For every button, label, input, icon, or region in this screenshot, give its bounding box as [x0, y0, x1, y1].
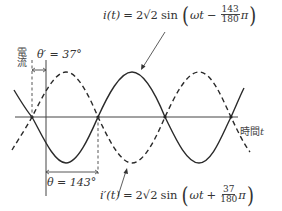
eq-i-denominator: 180 — [222, 15, 239, 24]
eq-i-rparen: ) — [249, 1, 256, 27]
eq-ip-sign: + — [207, 188, 217, 202]
waveform-plot — [0, 0, 282, 211]
eq-ip-rparen: ) — [247, 181, 254, 207]
eq-i-sign: − — [207, 8, 217, 22]
y-axis-label: 電流 — [13, 47, 28, 67]
eq-i-pi: π — [241, 8, 249, 22]
crossing-dot — [229, 115, 232, 118]
eq-ip-equals: = — [123, 188, 133, 202]
eq-ip-lparen: ( — [182, 181, 189, 207]
eq-i-omega-t: ωt — [190, 8, 204, 22]
x-axis-label: 時間t — [240, 123, 264, 138]
i-prime-leader-arrowhead — [124, 168, 129, 174]
eq-i-fraction: 143 180 — [221, 5, 240, 24]
eq-ip-omega-t: ωt — [190, 188, 204, 202]
equation-i-prime: i′(t) = 2√2 sin ( ωt + 37 180 π ) — [100, 184, 255, 205]
x-axis-label-text: 時間 — [240, 126, 260, 137]
theta-label: θ = 143° — [47, 176, 96, 189]
theta-prime-label: θ′ = 37° — [37, 48, 82, 61]
eq-i-lhs: i(t) — [103, 8, 120, 22]
eq-i-sin: sin — [161, 8, 178, 22]
eq-ip-denominator: 180 — [220, 195, 237, 204]
eq-ip-sin: sin — [161, 188, 178, 202]
eq-ip-pi: π — [238, 188, 246, 202]
x-axis-label-var: t — [260, 126, 264, 137]
i-leader-arrowhead — [141, 64, 146, 70]
equation-i: i(t) = 2√2 sin ( ωt − 143 180 π ) — [103, 4, 257, 25]
eq-i-lparen: ( — [182, 1, 189, 27]
eq-ip-lhs: i′(t) — [100, 188, 120, 202]
i-leader-line — [143, 32, 165, 67]
eq-i-equals: = — [123, 8, 133, 22]
crossing-dot — [163, 115, 166, 118]
eq-ip-fraction: 37 180 — [220, 185, 237, 204]
diagram-canvas: 電流 θ′ = 37° θ = 143° 時間t i(t) = 2√2 sin … — [0, 0, 282, 211]
eq-i-amplitude: 2√2 — [136, 8, 158, 22]
eq-ip-amplitude: 2√2 — [136, 188, 158, 202]
